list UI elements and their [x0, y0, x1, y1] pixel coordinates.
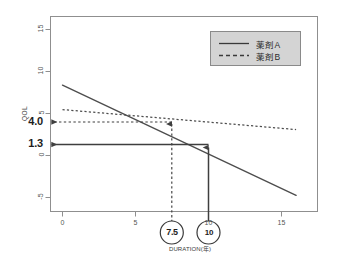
callout-duration-drug-a: 10	[197, 228, 221, 237]
y-tick-label-minus-5: -5	[37, 190, 44, 204]
series-line-drug-b	[63, 110, 297, 130]
y-axis-ticks	[46, 30, 51, 198]
y-tick-label-15: 15	[37, 22, 44, 36]
legend-label-drug-a: 薬剤A	[256, 38, 280, 50]
y-tick-label-0: 0	[38, 148, 45, 162]
legend-label-drug-b: 薬剤B	[256, 50, 280, 62]
callout-qol-drug-a: 1.3	[17, 137, 43, 149]
y-tick-label-10: 10	[37, 64, 44, 78]
callout-duration-intersection: 7.5	[160, 227, 184, 237]
x-tick-label-10: 10	[201, 219, 216, 226]
x-tick-label-5: 5	[128, 219, 143, 226]
chart-canvas: 15 10 5 0 -5 QOL 0 5 10 15 DURATION(年) 7…	[0, 0, 338, 262]
series-line-drug-a	[63, 85, 297, 195]
x-axis-title: DURATION(年)	[150, 244, 230, 253]
x-tick-label-15: 15	[274, 219, 289, 226]
x-tick-label-0: 0	[55, 219, 70, 226]
callout-qol-intersection: 4.0	[17, 115, 43, 127]
